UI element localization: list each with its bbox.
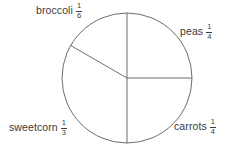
slice-label-carrots: carrots 1 4 xyxy=(174,118,216,136)
fraction-numerator: 1 xyxy=(76,2,82,10)
slice-label-carrots-fraction: 1 4 xyxy=(210,118,216,136)
slice-label-peas-name: peas xyxy=(180,23,203,37)
fraction-denominator: 4 xyxy=(206,33,212,41)
pie-radius-divider xyxy=(71,46,127,79)
pie-chart-figure: broccoli 1 6 peas 1 4 sweetcorn 1 3 carr… xyxy=(0,0,233,148)
fraction-denominator: 4 xyxy=(210,128,216,136)
slice-label-broccoli-fraction: 1 6 xyxy=(76,2,82,20)
slice-label-carrots-name: carrots xyxy=(174,118,207,132)
fraction-numerator: 1 xyxy=(61,119,67,127)
slice-label-sweetcorn-fraction: 1 3 xyxy=(61,119,67,137)
fraction-numerator: 1 xyxy=(210,118,216,126)
slice-label-peas-fraction: 1 4 xyxy=(206,23,212,41)
slice-label-sweetcorn-name: sweetcorn xyxy=(9,119,58,133)
fraction-numerator: 1 xyxy=(206,23,212,31)
slice-label-sweetcorn: sweetcorn 1 3 xyxy=(9,119,67,137)
fraction-denominator: 3 xyxy=(61,129,67,137)
slice-label-peas: peas 1 4 xyxy=(180,23,212,41)
fraction-denominator: 6 xyxy=(76,12,82,20)
slice-label-broccoli-name: broccoli xyxy=(36,2,73,16)
slice-label-broccoli: broccoli 1 6 xyxy=(36,2,82,20)
